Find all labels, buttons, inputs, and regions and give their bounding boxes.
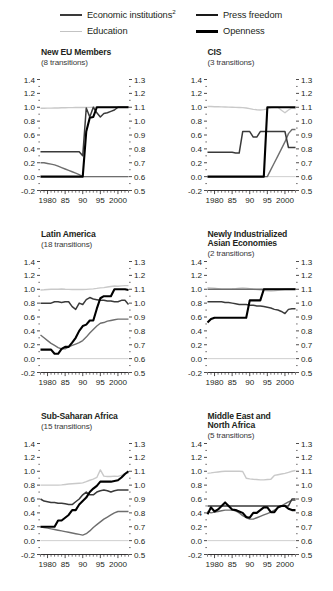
panel-title-sub-saharan-africa: Sub-Saharan Africa (41, 412, 118, 421)
svg-text:85: 85 (61, 560, 71, 569)
legend-label-education: Education (87, 26, 127, 36)
panel-row: 1.41.31.21.21.01.10.81.00.60.90.40.80.20… (0, 228, 333, 410)
svg-text:0.6: 0.6 (134, 537, 146, 546)
svg-text:1.0: 1.0 (24, 103, 36, 112)
svg-text:1.0: 1.0 (134, 117, 146, 126)
svg-text:0.5: 0.5 (301, 369, 313, 378)
svg-text:95: 95 (96, 378, 106, 387)
svg-text:0.6: 0.6 (301, 355, 313, 364)
svg-text:0.6: 0.6 (24, 495, 36, 504)
panel-new-eu-members: 1.41.31.21.21.01.10.81.00.60.90.40.80.20… (0, 46, 167, 228)
svg-text:-0.2: -0.2 (21, 187, 35, 196)
svg-text:1.2: 1.2 (301, 453, 313, 462)
legend-item-press-freedom: Press freedom (196, 8, 282, 22)
svg-text:0.9: 0.9 (134, 495, 146, 504)
svg-text:0.0: 0.0 (24, 537, 36, 546)
svg-text:0.5: 0.5 (134, 187, 146, 196)
svg-text:2000: 2000 (109, 196, 128, 205)
svg-text:90: 90 (245, 196, 255, 205)
legend-swatch-education (60, 31, 82, 32)
svg-text:0.8: 0.8 (24, 299, 36, 308)
svg-text:0.8: 0.8 (301, 327, 313, 336)
svg-text:1.2: 1.2 (24, 271, 36, 280)
legend-column-left: Economic institutions2 Education (60, 8, 176, 40)
svg-text:90: 90 (78, 378, 88, 387)
legend-item-openness: Openness (196, 24, 282, 38)
svg-text:1.4: 1.4 (24, 440, 36, 449)
svg-text:1980: 1980 (205, 378, 224, 387)
panel-grid: 1.41.31.21.21.01.10.81.00.60.90.40.80.20… (0, 46, 333, 591)
panel-title-cis: CIS (208, 48, 222, 57)
svg-text:0.8: 0.8 (190, 299, 202, 308)
series-line-economic-institutions (207, 302, 295, 314)
svg-text:1.4: 1.4 (24, 76, 36, 85)
svg-text:0.2: 0.2 (190, 523, 202, 532)
svg-text:2000: 2000 (275, 560, 294, 569)
legend-label-press-freedom: Press freedom (223, 10, 282, 20)
svg-text:0.6: 0.6 (134, 355, 146, 364)
svg-text:0.5: 0.5 (301, 551, 313, 560)
series-line-openness (41, 107, 129, 176)
svg-text:-0.2: -0.2 (21, 551, 35, 560)
svg-text:0.6: 0.6 (190, 131, 202, 140)
svg-text:0.0: 0.0 (24, 355, 36, 364)
svg-text:0.0: 0.0 (190, 355, 202, 364)
svg-text:1.2: 1.2 (134, 89, 146, 98)
series-line-education (207, 471, 295, 480)
svg-text:1.3: 1.3 (301, 258, 313, 267)
svg-text:0.2: 0.2 (24, 159, 36, 168)
svg-text:1.0: 1.0 (134, 481, 146, 490)
svg-text:1.2: 1.2 (190, 453, 202, 462)
svg-text:1.3: 1.3 (134, 76, 146, 85)
svg-text:0.8: 0.8 (134, 509, 146, 518)
svg-text:85: 85 (61, 378, 71, 387)
series-line-economic-institutions (41, 298, 129, 310)
panel-subtitle-middle-east-and-north-africa: (5 transitions) (208, 431, 255, 440)
panel-subtitle-cis: (3 transitions) (208, 58, 255, 67)
panel-subtitle-newly-industrialized-asian-economies: (2 transitions) (208, 249, 255, 258)
svg-text:1.2: 1.2 (24, 89, 36, 98)
svg-text:1.2: 1.2 (24, 453, 36, 462)
panel-middle-east-and-north-africa: 1.41.31.21.21.01.10.81.00.60.90.40.80.20… (167, 410, 333, 591)
svg-text:1.3: 1.3 (134, 258, 146, 267)
svg-text:0.6: 0.6 (134, 173, 146, 182)
svg-text:0.6: 0.6 (24, 313, 36, 322)
svg-text:85: 85 (227, 560, 237, 569)
svg-text:85: 85 (61, 196, 71, 205)
panel-subtitle-new-eu-members: (8 transitions) (41, 58, 88, 67)
svg-text:0.8: 0.8 (134, 327, 146, 336)
svg-text:2000: 2000 (275, 196, 294, 205)
svg-text:1.1: 1.1 (134, 285, 146, 294)
svg-text:0.2: 0.2 (190, 159, 202, 168)
svg-text:0.9: 0.9 (301, 495, 313, 504)
svg-text:0.0: 0.0 (190, 537, 202, 546)
svg-text:0.2: 0.2 (24, 523, 36, 532)
svg-text:0.4: 0.4 (24, 509, 36, 518)
svg-text:1.1: 1.1 (134, 467, 146, 476)
svg-text:0.9: 0.9 (301, 131, 313, 140)
legend-item-education: Education (60, 24, 176, 38)
chart-legend: Economic institutions2 Education Press f… (0, 8, 333, 44)
svg-text:1.0: 1.0 (190, 103, 202, 112)
svg-text:1.0: 1.0 (190, 285, 202, 294)
svg-text:0.5: 0.5 (301, 187, 313, 196)
svg-text:-0.2: -0.2 (188, 551, 202, 560)
svg-text:1980: 1980 (39, 196, 58, 205)
svg-text:0.7: 0.7 (134, 523, 146, 532)
panel-subtitle-sub-saharan-africa: (15 transitions) (41, 422, 92, 431)
svg-text:2000: 2000 (109, 378, 128, 387)
legend-item-economic-institutions: Economic institutions2 (60, 8, 176, 22)
svg-text:0.7: 0.7 (301, 523, 313, 532)
panel-row: 1.41.31.21.21.01.10.81.00.60.90.40.80.20… (0, 46, 333, 228)
svg-text:1.4: 1.4 (24, 258, 36, 267)
panel-title-newly-industrialized-asian-economies: Newly IndustrializedAsian Economies (208, 230, 288, 249)
svg-text:1.0: 1.0 (301, 299, 313, 308)
series-line-press-freedom (41, 511, 129, 535)
svg-text:90: 90 (78, 196, 88, 205)
svg-text:1.1: 1.1 (301, 467, 313, 476)
svg-text:0.4: 0.4 (24, 145, 36, 154)
svg-text:0.5: 0.5 (134, 369, 146, 378)
svg-text:0.6: 0.6 (301, 173, 313, 182)
legend-column-right: Press freedom Openness (196, 8, 282, 40)
legend-swatch-economic-institutions (60, 14, 82, 16)
